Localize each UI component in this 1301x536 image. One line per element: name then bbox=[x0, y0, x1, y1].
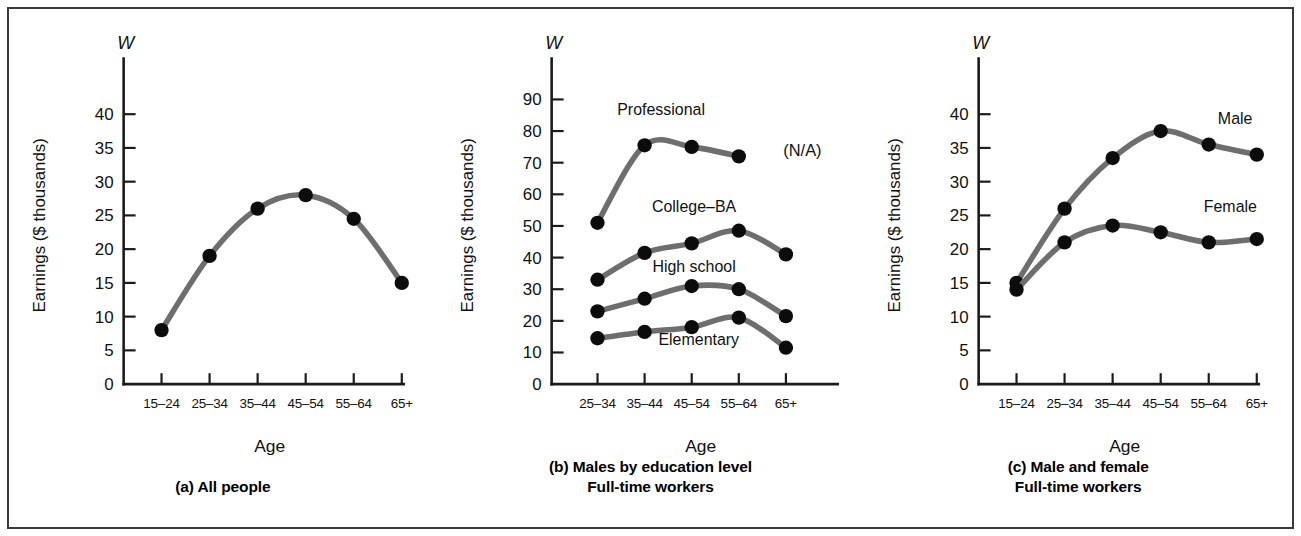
y-tick-label: 10 bbox=[523, 343, 542, 362]
y-tick-label: 90 bbox=[523, 90, 542, 109]
y-axis-title: Earnings ($ thousands) bbox=[30, 138, 49, 312]
y-axis-symbol: W bbox=[545, 33, 564, 53]
data-point-marker bbox=[250, 202, 264, 216]
x-tick-label: 65+ bbox=[774, 396, 797, 411]
data-point-marker bbox=[684, 140, 698, 154]
data-point-marker bbox=[1058, 235, 1072, 249]
y-tick-label: 70 bbox=[523, 154, 542, 173]
y-tick-label: 20 bbox=[95, 240, 114, 259]
y-tick-label: 5 bbox=[960, 341, 969, 360]
series-label: College–BA bbox=[652, 198, 737, 215]
panel-b-caption: (b) Males by education level Full-time w… bbox=[437, 457, 865, 497]
y-tick-label: 15 bbox=[95, 274, 114, 293]
panel-c-chart: WEarnings ($ thousands)05101520253035401… bbox=[864, 9, 1292, 527]
data-point-marker bbox=[1106, 151, 1120, 165]
data-point-marker bbox=[731, 282, 745, 296]
y-axis-title: Earnings ($ thousands) bbox=[458, 138, 477, 312]
y-axis-symbol: W bbox=[973, 33, 992, 53]
data-point-marker bbox=[1010, 282, 1024, 296]
data-point-marker bbox=[395, 276, 409, 290]
data-point-marker bbox=[590, 304, 604, 318]
series-label: Male bbox=[1218, 110, 1253, 127]
panel-c-caption-line2: Full-time workers bbox=[864, 477, 1292, 497]
y-tick-label: 20 bbox=[523, 312, 542, 331]
panel-a-caption-line1: (a) All people bbox=[175, 478, 270, 495]
x-tick-label: 55–64 bbox=[336, 396, 373, 411]
panel-b-caption-line2: Full-time workers bbox=[437, 477, 865, 497]
x-axis-title: Age bbox=[685, 436, 716, 456]
data-point-marker bbox=[299, 188, 313, 202]
figure-frame: WEarnings ($ thousands)05101520253035401… bbox=[7, 7, 1294, 529]
data-point-marker bbox=[778, 341, 792, 355]
y-tick-label: 35 bbox=[950, 139, 969, 158]
series-label: Female bbox=[1204, 198, 1257, 215]
y-tick-label: 60 bbox=[523, 185, 542, 204]
data-point-marker bbox=[1106, 218, 1120, 232]
data-point-marker bbox=[1154, 225, 1168, 239]
series-label: Professional bbox=[617, 101, 705, 118]
panel-c: WEarnings ($ thousands)05101520253035401… bbox=[864, 9, 1292, 527]
data-point-marker bbox=[778, 309, 792, 323]
data-point-marker bbox=[1154, 124, 1168, 138]
y-tick-label: 35 bbox=[95, 139, 114, 158]
y-tick-label: 80 bbox=[523, 122, 542, 141]
series-label: High school bbox=[652, 258, 735, 275]
na-annotation: (N/A) bbox=[783, 141, 821, 159]
x-tick-label: 35–44 bbox=[1095, 396, 1132, 411]
data-point-marker bbox=[637, 246, 651, 260]
data-point-marker bbox=[637, 138, 651, 152]
x-tick-label: 55–64 bbox=[720, 396, 757, 411]
data-point-marker bbox=[637, 325, 651, 339]
panel-b-caption-line1: (b) Males by education level bbox=[549, 458, 752, 475]
panel-a-caption: (a) All people bbox=[9, 477, 437, 497]
data-point-marker bbox=[590, 273, 604, 287]
x-axis-title: Age bbox=[254, 436, 285, 456]
y-tick-label: 30 bbox=[950, 173, 969, 192]
panel-row: WEarnings ($ thousands)05101520253035401… bbox=[9, 9, 1292, 527]
panel-b: WEarnings ($ thousands)01020304050607080… bbox=[437, 9, 865, 527]
y-tick-label: 5 bbox=[104, 341, 113, 360]
data-point-marker bbox=[1250, 148, 1264, 162]
y-tick-label: 0 bbox=[532, 375, 541, 394]
x-tick-label: 15–24 bbox=[143, 396, 180, 411]
data-point-marker bbox=[1250, 232, 1264, 246]
x-tick-label: 25–34 bbox=[579, 396, 616, 411]
y-tick-label: 40 bbox=[950, 105, 969, 124]
y-tick-label: 20 bbox=[950, 240, 969, 259]
data-point-marker bbox=[731, 224, 745, 238]
y-tick-label: 15 bbox=[950, 274, 969, 293]
data-point-marker bbox=[590, 216, 604, 230]
x-tick-label: 55–64 bbox=[1191, 396, 1228, 411]
data-point-marker bbox=[778, 247, 792, 261]
series-label: Elementary bbox=[658, 331, 739, 348]
y-tick-label: 25 bbox=[95, 206, 114, 225]
data-point-marker bbox=[684, 279, 698, 293]
series-line bbox=[1017, 225, 1257, 289]
data-point-marker bbox=[1202, 235, 1216, 249]
data-point-marker bbox=[731, 149, 745, 163]
x-tick-label: 45–54 bbox=[673, 396, 710, 411]
y-tick-label: 10 bbox=[950, 308, 969, 327]
y-axis-title: Earnings ($ thousands) bbox=[885, 138, 904, 312]
y-tick-label: 30 bbox=[95, 173, 114, 192]
data-point-marker bbox=[684, 236, 698, 250]
x-tick-label: 45–54 bbox=[287, 396, 324, 411]
data-point-marker bbox=[202, 249, 216, 263]
panel-b-chart: WEarnings ($ thousands)01020304050607080… bbox=[437, 9, 865, 527]
x-tick-label: 65+ bbox=[391, 396, 414, 411]
x-tick-label: 25–34 bbox=[1047, 396, 1084, 411]
y-tick-label: 25 bbox=[950, 206, 969, 225]
data-point-marker bbox=[1202, 137, 1216, 151]
x-tick-label: 35–44 bbox=[239, 396, 276, 411]
y-tick-label: 10 bbox=[95, 308, 114, 327]
x-tick-label: 45–54 bbox=[1143, 396, 1180, 411]
panel-c-caption-line1: (c) Male and female bbox=[1008, 458, 1149, 475]
series-line bbox=[162, 195, 402, 330]
x-tick-label: 15–24 bbox=[999, 396, 1036, 411]
data-point-marker bbox=[731, 311, 745, 325]
y-tick-label: 40 bbox=[95, 105, 114, 124]
y-tick-label: 0 bbox=[104, 375, 113, 394]
y-tick-label: 50 bbox=[523, 217, 542, 236]
x-axis-title: Age bbox=[1110, 436, 1141, 456]
panel-a-chart: WEarnings ($ thousands)05101520253035401… bbox=[9, 9, 437, 527]
